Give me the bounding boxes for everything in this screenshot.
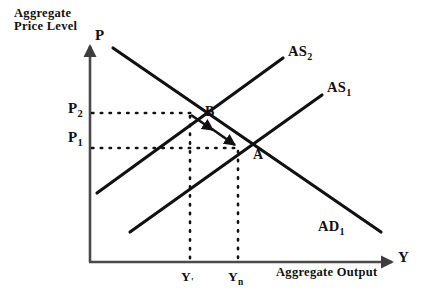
x-axis-letter: Y <box>398 250 409 266</box>
curve-label-as2-sub: 2 <box>307 51 312 62</box>
curve-label-ad1-sub: 1 <box>340 226 345 237</box>
price-tick-sub-p2: 2 <box>77 108 82 119</box>
y-axis-letter: P <box>95 28 104 44</box>
price-tick-label-p2: P2 <box>68 101 83 117</box>
curve-label-as1: AS1 <box>327 80 351 95</box>
output-tick-label-yprime: Y' <box>181 270 194 284</box>
equilibrium-point-label-a: A <box>253 148 263 163</box>
output-tick-base-yprime: Y <box>181 269 191 284</box>
curve-ad1 <box>113 48 381 232</box>
curve-label-ad1: AD1 <box>318 219 345 234</box>
curve-as1 <box>130 95 322 232</box>
y-axis-title-line1: Aggregate <box>14 6 71 20</box>
output-tick-label-yn: Yn <box>228 270 243 284</box>
output-tick-base-yn: Y <box>228 269 238 284</box>
curve-label-ad1-base: AD <box>318 218 340 234</box>
output-tick-sub-yn: n <box>238 277 243 287</box>
price-tick-sub-p1: 1 <box>77 137 82 148</box>
aggregate-supply-demand-diagram: Aggregate Price Level P Y Aggregate Outp… <box>0 0 421 303</box>
y-axis-title-line2: Price Level <box>14 20 77 33</box>
curve-label-as2: AS2 <box>288 44 312 59</box>
curve-label-as2-base: AS <box>288 43 307 59</box>
curve-label-as1-sub: 1 <box>346 87 351 98</box>
adjustment-arrow-2 <box>212 129 235 145</box>
price-tick-label-p1: P1 <box>68 130 83 146</box>
equilibrium-point-label-b: B <box>205 105 215 120</box>
curve-label-as1-base: AS <box>327 79 346 95</box>
output-tick-sub-yprime: ' <box>191 277 194 287</box>
x-axis-title: Aggregate Output <box>276 266 377 279</box>
y-axis-title: Aggregate Price Level <box>14 7 77 33</box>
diagram-canvas <box>0 0 421 303</box>
